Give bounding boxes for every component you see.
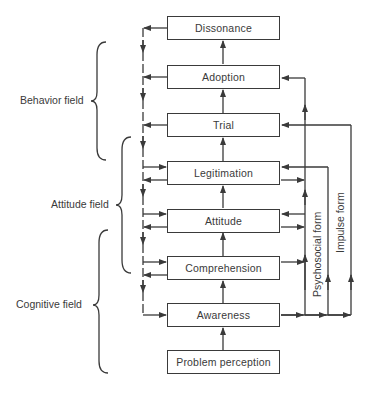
psychosocial-form-label: Psychosocial form	[311, 212, 323, 297]
stage-awareness: Awareness	[167, 303, 280, 327]
stage-trial: Trial	[167, 113, 280, 137]
stage-legitimation: Legitimation	[167, 161, 280, 185]
stage-problem-perception: Problem perception	[167, 350, 280, 374]
cognitive-brace	[93, 230, 108, 373]
stage-comprehension: Comprehension	[167, 256, 280, 280]
stage-label: Comprehension	[185, 262, 262, 274]
stage-adoption: Adoption	[167, 65, 280, 89]
stage-label: Trial	[213, 119, 234, 131]
attitude-field-label: Attitude field	[51, 198, 109, 210]
stage-label: Legitimation	[194, 167, 253, 179]
stage-attitude: Attitude	[167, 209, 280, 233]
behavior-brace	[91, 42, 106, 160]
stage-label: Awareness	[197, 309, 251, 321]
behavior-field-label: Behavior field	[20, 94, 84, 106]
cognitive-field-label: Cognitive field	[16, 298, 82, 310]
stage-label: Adoption	[202, 71, 245, 83]
stage-label: Problem perception	[176, 356, 271, 368]
stage-label: Dissonance	[195, 22, 252, 34]
impulse-form-label: Impulse form	[334, 192, 346, 253]
stage-dissonance: Dissonance	[167, 16, 280, 40]
attitude-brace	[116, 137, 131, 273]
stage-label: Attitude	[205, 215, 242, 227]
